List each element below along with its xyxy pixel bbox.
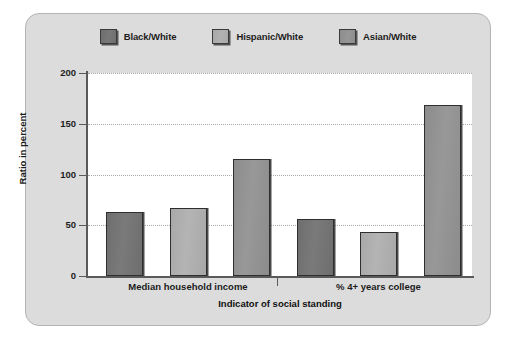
y-tick-label: 200	[42, 67, 76, 78]
legend-item[interactable]: Hispanic/White	[212, 29, 303, 44]
gridline	[88, 225, 472, 226]
bar	[170, 208, 207, 276]
bar	[297, 219, 334, 276]
y-tick-label: 0	[42, 270, 76, 281]
x-axis-group-label: Median household income	[88, 281, 288, 292]
bar	[424, 105, 461, 276]
y-tick-mark	[79, 124, 86, 125]
legend-swatch-icon	[339, 29, 356, 44]
legend-label: Asian/White	[363, 31, 416, 42]
plot-area	[88, 73, 472, 276]
y-axis-line	[86, 71, 88, 278]
chart-page: Black/WhiteHispanic/WhiteAsian/White 050…	[0, 0, 516, 342]
legend-item[interactable]: Black/White	[100, 29, 177, 44]
y-tick-mark	[79, 73, 86, 74]
legend-label: Black/White	[124, 31, 177, 42]
y-tick-mark	[79, 175, 86, 176]
y-tick-label: 100	[42, 169, 76, 180]
bar	[360, 232, 397, 276]
legend-item[interactable]: Asian/White	[339, 29, 416, 44]
x-axis-title: Indicator of social standing	[88, 298, 472, 309]
y-tick-mark	[79, 225, 86, 226]
x-axis-line	[86, 276, 474, 278]
y-axis-title: Ratio in percent	[17, 94, 28, 204]
gridline	[88, 124, 472, 125]
gridline	[88, 73, 472, 74]
bar	[106, 212, 143, 276]
gridline	[88, 175, 472, 176]
bar	[233, 159, 270, 276]
legend-swatch-icon	[100, 29, 117, 44]
legend-label: Hispanic/White	[236, 31, 303, 42]
y-tick-label: 50	[42, 219, 76, 230]
chart-legend: Black/WhiteHispanic/WhiteAsian/White	[25, 13, 491, 59]
legend-swatch-icon	[212, 29, 229, 44]
x-axis-group-label: % 4+ years college	[279, 281, 479, 292]
y-tick-label: 150	[42, 118, 76, 129]
y-tick-mark	[79, 276, 86, 277]
